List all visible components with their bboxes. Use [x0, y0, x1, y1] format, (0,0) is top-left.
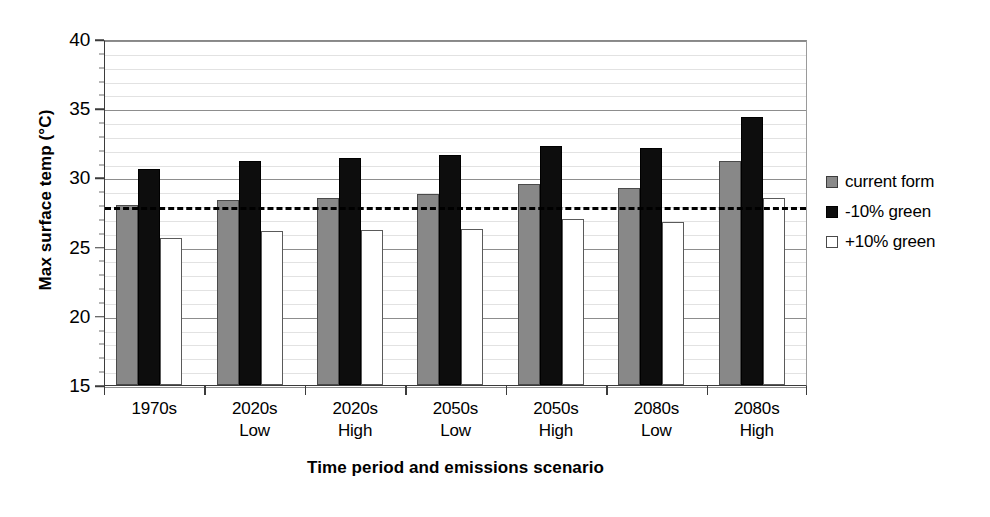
legend-swatch-icon	[826, 236, 838, 248]
y-tick-label: 40	[69, 29, 90, 51]
x-axis-label-line1: 2080s	[734, 399, 779, 418]
legend-label: current form	[845, 172, 934, 192]
y-tick-label: 30	[69, 167, 90, 189]
x-tick-mark	[305, 386, 306, 395]
bar-current	[317, 198, 339, 385]
x-axis-label-line2: Low	[405, 420, 505, 442]
x-axis-label-line1: 1970s	[132, 399, 177, 418]
x-axis-label-line1: 2020s	[332, 399, 377, 418]
bar-minus	[640, 148, 662, 385]
x-axis-label-line1: 2050s	[533, 399, 578, 418]
x-axis-labels: 1970s2020sLow2020sHigh2050sLow2050sHigh2…	[104, 398, 807, 458]
y-tick-mark	[95, 178, 104, 180]
x-tick-mark	[806, 386, 807, 395]
x-axis-label: 1970s	[104, 398, 204, 420]
x-axis-label-line1: 2050s	[433, 399, 478, 418]
x-axis-label-line2: High	[506, 420, 606, 442]
bar-current	[518, 184, 540, 385]
legend: current form-10% green+10% green	[826, 168, 990, 258]
x-axis-label: 2050sHigh	[506, 398, 606, 442]
bar-group	[105, 41, 205, 385]
bar-current	[217, 200, 239, 385]
x-axis-label-line1: 2020s	[232, 399, 277, 418]
x-axis-label: 2050sLow	[405, 398, 505, 442]
y-tick-mark	[95, 385, 104, 387]
x-tick-mark	[104, 386, 105, 395]
y-tick-label: 35	[69, 98, 90, 120]
bar-group	[607, 41, 707, 385]
y-tick-mark	[95, 39, 104, 41]
x-axis-label: 2020sLow	[204, 398, 304, 442]
x-axis-label: 2020sHigh	[305, 398, 405, 442]
bar-minus	[339, 158, 361, 385]
legend-label: +10% green	[845, 232, 935, 252]
y-tick-mark	[95, 247, 104, 249]
bar-plus	[562, 219, 584, 385]
legend-swatch-icon	[826, 176, 838, 188]
y-tick-mark	[95, 316, 104, 318]
bar-group	[406, 41, 506, 385]
bars-layer	[105, 41, 806, 385]
legend-swatch-icon	[826, 206, 838, 218]
bar-plus	[160, 238, 182, 385]
bar-chart: Max surface temp (°C) 152025303540 1970s…	[0, 0, 990, 517]
bar-group	[708, 41, 808, 385]
bar-current	[116, 205, 138, 385]
x-axis-label: 2080sLow	[606, 398, 706, 442]
legend-label: -10% green	[845, 202, 931, 222]
y-tick-label: 25	[69, 237, 90, 259]
bar-plus	[261, 231, 283, 385]
x-tick-mark	[204, 386, 205, 395]
y-tick-label: 15	[69, 375, 90, 397]
x-axis-label-line2: Low	[606, 420, 706, 442]
bar-current	[719, 161, 741, 385]
legend-item-minus[interactable]: -10% green	[826, 198, 990, 225]
x-axis-ticks	[104, 386, 807, 398]
x-axis-label-line1: 2080s	[634, 399, 679, 418]
bar-current	[417, 194, 439, 385]
plot-area	[104, 40, 807, 386]
bar-plus	[662, 222, 684, 385]
y-axis-ticks: 152025303540	[0, 40, 104, 386]
bar-current	[618, 188, 640, 385]
bar-minus	[540, 146, 562, 385]
bar-group	[306, 41, 406, 385]
bar-minus	[741, 117, 763, 385]
legend-item-current[interactable]: current form	[826, 168, 990, 195]
bar-minus	[439, 155, 461, 385]
y-tick-mark	[95, 108, 104, 110]
x-axis-label: 2080sHigh	[707, 398, 807, 442]
x-tick-mark	[405, 386, 406, 395]
legend-item-plus[interactable]: +10% green	[826, 228, 990, 255]
x-axis-label-line2: Low	[204, 420, 304, 442]
x-axis-title: Time period and emissions scenario	[104, 458, 807, 478]
bar-minus	[239, 161, 261, 385]
bar-group	[205, 41, 305, 385]
threshold-line	[105, 207, 806, 210]
bar-plus	[461, 229, 483, 385]
y-tick-label: 20	[69, 306, 90, 328]
bar-plus	[763, 198, 785, 385]
bar-group	[507, 41, 607, 385]
x-axis-label-line2: High	[305, 420, 405, 442]
x-tick-mark	[506, 386, 507, 395]
x-tick-mark	[606, 386, 607, 395]
x-axis-label-line2: High	[707, 420, 807, 442]
bar-plus	[361, 230, 383, 385]
x-tick-mark	[707, 386, 708, 395]
bar-minus	[138, 169, 160, 385]
